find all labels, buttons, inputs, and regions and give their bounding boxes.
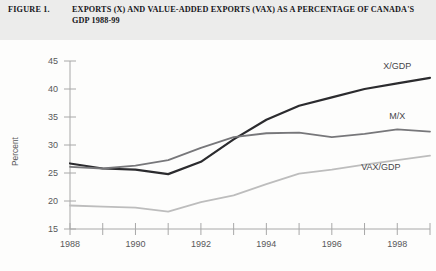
y-tick-label: 25 xyxy=(48,168,58,178)
series-label-vax-gdp: VAX/GDP xyxy=(361,162,400,172)
y-tick-label: 35 xyxy=(48,112,58,122)
series-label-m-x: M/X xyxy=(389,111,405,121)
figure-root: FIGURE 1. EXPORTS (X) AND VALUE-ADDED EX… xyxy=(0,0,436,271)
chart-plot-area: 15202530354045 198819901992199419961998 … xyxy=(0,40,436,271)
x-tick-label: 1988 xyxy=(60,239,80,249)
y-tick-label: 20 xyxy=(48,196,58,206)
y-tick-label: 45 xyxy=(48,56,58,66)
figure-title-band: FIGURE 1. EXPORTS (X) AND VALUE-ADDED EX… xyxy=(0,0,436,40)
y-tick-label: 30 xyxy=(48,140,58,150)
y-axis-ticks: 15202530354045 xyxy=(48,56,76,234)
figure-number-label: FIGURE 1. xyxy=(8,5,50,14)
x-tick-label: 1994 xyxy=(256,239,276,249)
figure-title: EXPORTS (X) AND VALUE-ADDED EXPORTS (VAX… xyxy=(72,4,424,27)
series-line-x-gdp xyxy=(70,78,430,174)
x-tick-label: 1998 xyxy=(387,239,407,249)
y-tick-label: 15 xyxy=(48,224,58,234)
series-annotations: X/GDPM/XVAX/GDP xyxy=(361,61,411,172)
x-axis-ticks: 198819901992199419961998 xyxy=(60,223,430,249)
data-series-group xyxy=(70,78,430,212)
x-tick-label: 1996 xyxy=(322,239,342,249)
x-tick-label: 1990 xyxy=(125,239,145,249)
series-label-x-gdp: X/GDP xyxy=(383,61,411,71)
y-tick-label: 40 xyxy=(48,84,58,94)
y-axis-title: Percent xyxy=(10,136,20,166)
line-chart: 15202530354045 198819901992199419961998 … xyxy=(0,40,436,271)
x-tick-label: 1992 xyxy=(191,239,211,249)
